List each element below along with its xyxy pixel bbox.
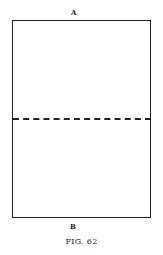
figure-caption: FIG. 62 xyxy=(0,237,163,246)
dashed-fold-line xyxy=(13,118,151,120)
label-b: B xyxy=(70,222,76,231)
label-a: A xyxy=(71,8,76,17)
